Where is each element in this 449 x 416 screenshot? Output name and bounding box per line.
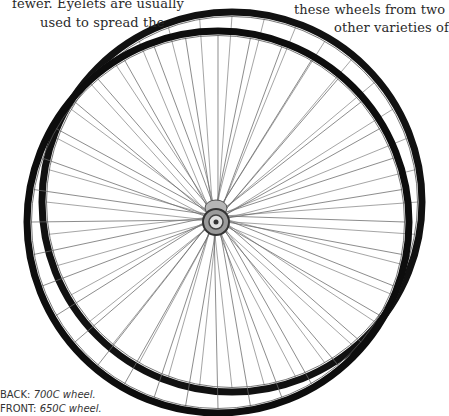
caption-back-label: BACK: bbox=[0, 389, 30, 400]
caption-front: FRONT: 650C wheel. bbox=[0, 403, 102, 414]
body-text-left-line-2: used to spread the bbox=[40, 15, 165, 30]
hub-icon bbox=[203, 200, 229, 235]
caption-front-label: FRONT: bbox=[0, 403, 36, 414]
body-text-right-line-1: these wheels from two bbox=[294, 2, 445, 17]
body-text-left-line-1: fewer. Eyelets are usually bbox=[12, 0, 184, 11]
caption-back: BACK: 700C wheel. bbox=[0, 389, 96, 400]
caption-back-value: 700C wheel. bbox=[34, 389, 96, 400]
body-text-right-line-2: other varieties of bbox=[334, 20, 449, 35]
caption-front-value: 650C wheel. bbox=[40, 403, 102, 414]
